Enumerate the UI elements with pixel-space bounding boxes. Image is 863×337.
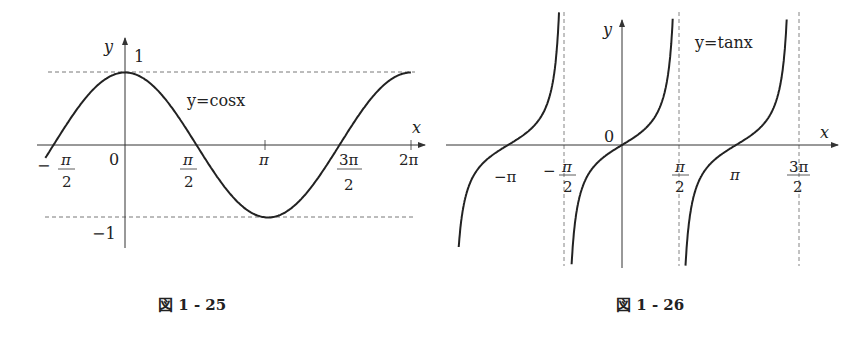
label-one: 1 — [134, 47, 144, 66]
tick-label-pi: π — [258, 151, 270, 169]
svg-text:π: π — [674, 158, 686, 176]
svg-text:−: − — [543, 162, 556, 180]
x-axis-label: x — [412, 118, 421, 137]
origin-label: 0 — [604, 127, 614, 146]
tick-label-half-pi: π 2 — [180, 151, 197, 191]
svg-text:2: 2 — [563, 178, 573, 196]
svg-text:−: − — [37, 156, 50, 175]
svg-text:3π: 3π — [789, 158, 809, 176]
svg-text:2: 2 — [675, 178, 685, 196]
tan-graph: y y=tanx x 0 −π − π 2 π 2 π 3π 2 — [446, 12, 838, 268]
curve-label-cos: y=cosx — [186, 91, 245, 110]
figure-canvas: y 1 x y=cosx 0 −1 − π 2 π 2 π 3π 2 2π — [0, 0, 863, 337]
svg-text:3π: 3π — [339, 151, 359, 169]
tick-label-three-half-pi: 3π 2 — [337, 151, 362, 194]
tick-label-half-pi: π 2 — [672, 158, 689, 196]
origin-label: 0 — [109, 150, 119, 169]
caption-fig-1-25: 図 1 - 25 — [158, 293, 226, 314]
tick-label-neg-pi: −π — [494, 168, 517, 186]
y-axis-label: y — [602, 20, 613, 39]
cos-graph: y 1 x y=cosx 0 −1 − π 2 π 2 π 3π 2 2π — [37, 37, 425, 248]
tick-label-three-half-pi: 3π 2 — [787, 158, 810, 196]
caption-fig-1-26: 図 1 - 26 — [616, 293, 684, 314]
y-axis-label: y — [103, 37, 114, 56]
tick-label-neg-half-pi: − π 2 — [37, 151, 75, 191]
tick-label-pi: π — [729, 166, 741, 184]
svg-text:π: π — [561, 158, 573, 176]
tan-branch-right — [686, 20, 787, 266]
x-axis-label: x — [820, 123, 829, 142]
label-minus-one: −1 — [92, 224, 116, 243]
tan-branch-left — [459, 12, 559, 247]
svg-text:π: π — [182, 151, 194, 169]
svg-text:2: 2 — [344, 176, 354, 194]
svg-text:2: 2 — [62, 173, 72, 191]
tick-label-two-pi: 2π — [399, 151, 419, 169]
svg-text:2: 2 — [184, 173, 194, 191]
svg-text:π: π — [60, 151, 72, 169]
curve-label-tan: y=tanx — [694, 33, 753, 52]
tick-label-neg-half-pi: − π 2 — [543, 158, 576, 196]
svg-text:2: 2 — [793, 178, 803, 196]
